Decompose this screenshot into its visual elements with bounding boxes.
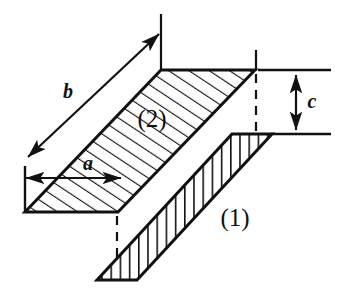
diagram-canvas: b a c (2) (1)	[0, 0, 341, 299]
dimension-b-label: b	[63, 80, 73, 102]
part-one-label: (1)	[220, 204, 249, 232]
dimension-c-label: c	[308, 90, 317, 112]
dimension-a-label: a	[83, 152, 93, 174]
technical-diagram-figure: b a c (2) (1)	[0, 0, 341, 299]
part-two-label: (2)	[137, 105, 166, 133]
